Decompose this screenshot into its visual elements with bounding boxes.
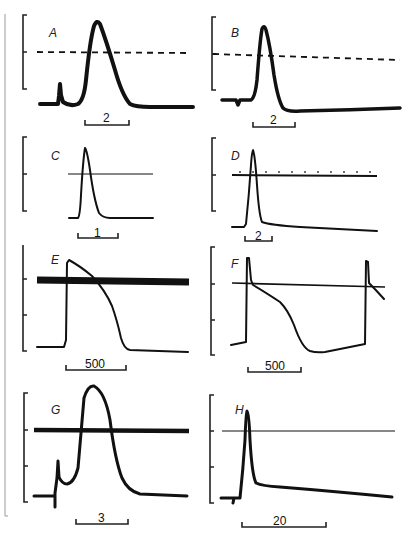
action-potential-trace [37, 260, 188, 352]
panel-d: D 2 [212, 138, 377, 243]
panel-a: A 2 [23, 15, 193, 125]
panel-label: A [48, 26, 57, 40]
reference-line-with-ticks [232, 175, 377, 176]
action-potential-trace [232, 150, 377, 231]
action-potential-trace [231, 258, 384, 352]
dashed-reference-line [37, 52, 187, 53]
scale-bar-label: 2 [255, 229, 262, 243]
calibration-bracket [210, 395, 214, 503]
panel-h: H 20 [210, 395, 395, 528]
calibration-bracket [212, 138, 216, 211]
scale-bar-label: 20 [273, 514, 287, 528]
action-potential-trace [40, 22, 193, 107]
calibration-bracket [23, 245, 27, 351]
panel-label: F [231, 257, 239, 271]
action-potential-trace [221, 411, 392, 503]
time-ticks [240, 171, 370, 173]
panel-label: C [51, 149, 60, 163]
panel-b: B 2 [212, 17, 400, 127]
panel-f: F 500 [211, 247, 385, 373]
panel-e: E 500 [23, 245, 189, 371]
scale-bar-label: 3 [98, 511, 105, 525]
scale-bar-label: 500 [265, 359, 285, 373]
figure: A 2 B 2 C 1 D 2 E 500 [0, 0, 413, 536]
panel-label: G [51, 403, 60, 417]
panel-label: H [235, 403, 244, 417]
panel-label: D [231, 149, 240, 163]
calibration-bracket [24, 393, 28, 502]
thick-reference-line [37, 280, 189, 282]
action-potential-trace [222, 27, 400, 111]
dashed-reference-line [213, 54, 400, 60]
scale-bar-label: 2 [270, 113, 277, 127]
action-potential-trace [69, 148, 153, 218]
scale-bar-label: 500 [85, 357, 105, 371]
panel-g: G 3 [24, 386, 189, 525]
calibration-bracket [211, 247, 215, 355]
panel-label: B [231, 26, 239, 40]
panel-label: E [51, 253, 60, 267]
scale-bar-label: 1 [94, 226, 101, 240]
scale-bar-label: 2 [103, 111, 110, 125]
calibration-bracket [23, 137, 27, 211]
panel-c: C 1 [23, 137, 153, 240]
calibration-bracket [23, 15, 27, 89]
